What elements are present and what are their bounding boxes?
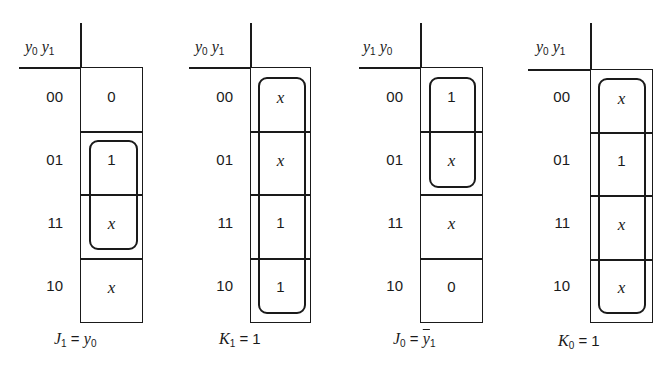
cell-10: x: [81, 278, 142, 298]
grouping-loop: [429, 77, 476, 188]
kmap-grid: x 1 x x: [590, 69, 653, 323]
row-label-00: 00: [193, 88, 233, 105]
kmap-k1: y0 y1 x x 1 1 00 01 11 10 K1 = 1: [170, 0, 335, 365]
row-label-01: 01: [193, 151, 233, 168]
kmap-axis-vertical: [80, 23, 82, 68]
cell-11: x: [421, 214, 482, 234]
row-divider: [421, 258, 482, 260]
equation-k0: K0 = 1: [558, 332, 600, 351]
row-label-01: 01: [363, 151, 403, 168]
variable-header: y0 y1: [25, 38, 54, 57]
row-divider: [421, 194, 482, 196]
row-label-01: 01: [23, 151, 63, 168]
cell-00: 0: [81, 88, 142, 105]
row-label-10: 10: [193, 277, 233, 294]
row-label-00: 00: [23, 88, 63, 105]
equation-k1: K1 = 1: [219, 330, 261, 349]
kmap-axis-horizontal: [528, 69, 591, 71]
kmap-j1: y0 y1 0 1 x x 00 01 11 10 J1 = y0: [0, 0, 165, 365]
row-label-11: 11: [530, 214, 570, 231]
kmap-axis-vertical: [250, 23, 252, 68]
row-label-10: 10: [363, 277, 403, 294]
kmap-axis-horizontal: [189, 67, 251, 69]
row-label-00: 00: [363, 88, 403, 105]
kmap-axis-horizontal: [19, 67, 81, 69]
row-divider: [81, 131, 142, 133]
complement-bar: y: [423, 330, 430, 347]
kmap-grid: 0 1 x x: [80, 67, 143, 323]
cell-10: 0: [421, 278, 482, 295]
row-label-00: 00: [530, 88, 570, 105]
kmap-axis-vertical: [420, 23, 422, 68]
grouping-loop: [598, 78, 646, 314]
kmap-j0: y1 y0 1 x x 0 00 01 11 10 J0 = y1: [340, 0, 505, 365]
equation-j0: J0 = y1: [393, 330, 435, 349]
grouping-loop: [89, 140, 138, 250]
kmap-axis-horizontal: [359, 67, 421, 69]
variable-header: y0 y1: [195, 38, 224, 57]
row-label-10: 10: [23, 277, 63, 294]
variable-header: y0 y1: [536, 38, 565, 57]
variable-header: y1 y0: [363, 38, 392, 57]
kmap-k0: y0 y1 x 1 x x 00 01 11 10 K0 = 1: [500, 0, 665, 365]
kmap-grid: x x 1 1: [250, 67, 311, 323]
row-label-11: 11: [363, 214, 403, 231]
row-label-11: 11: [193, 214, 233, 231]
kmap-axis-vertical: [590, 23, 592, 70]
row-label-10: 10: [530, 277, 570, 294]
row-label-11: 11: [23, 214, 63, 231]
equation-j1: J1 = y0: [54, 330, 96, 349]
kmap-grid: 1 x x 0: [420, 67, 483, 323]
row-divider: [81, 258, 142, 260]
grouping-loop: [258, 77, 306, 314]
row-label-01: 01: [530, 151, 570, 168]
